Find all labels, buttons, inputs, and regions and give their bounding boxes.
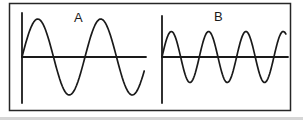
wave-b-label: B xyxy=(214,10,223,23)
wave-comparison-figure: A B xyxy=(0,0,303,120)
bottom-edge-shadow xyxy=(0,117,303,120)
wave-a-label: A xyxy=(74,11,83,24)
wave-diagram-canvas xyxy=(0,0,303,120)
